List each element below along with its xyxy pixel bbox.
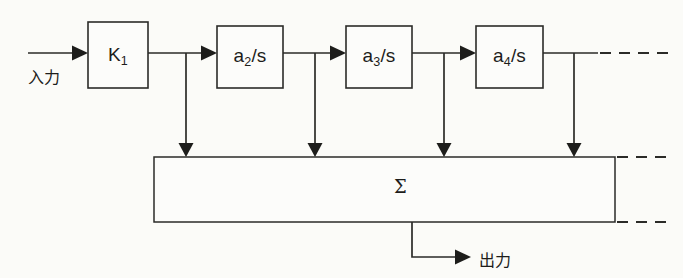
input-label: 入力 xyxy=(28,64,60,88)
arrow-into-a2s-icon xyxy=(201,46,217,61)
output-arrow-icon xyxy=(455,250,471,265)
block-a2s-base: a xyxy=(233,45,244,66)
block-a3s-label: a3/s xyxy=(346,45,412,69)
summing-block-shape xyxy=(154,157,672,222)
block-a4s-base: a xyxy=(493,45,504,66)
block-k1-label: K1 xyxy=(88,44,148,68)
output-path xyxy=(412,222,471,265)
block-a4s-sub: 4 xyxy=(504,55,511,69)
block-a2s-label: a2/s xyxy=(217,45,283,69)
output-label: 出力 xyxy=(479,247,511,271)
block-a4s-label: a4/s xyxy=(476,45,543,69)
block-a3s-tail: /s xyxy=(380,45,395,66)
input-arrow-icon xyxy=(72,46,88,61)
tap-1-arrow-icon xyxy=(179,143,194,157)
tap-4-arrow-icon xyxy=(567,143,582,157)
summing-block-label: Σ xyxy=(394,176,407,197)
tap-3-arrow-icon xyxy=(437,143,452,157)
block-a3s-base: a xyxy=(362,45,373,66)
summing-bar-outline xyxy=(154,157,615,222)
diagram-svg xyxy=(0,0,683,278)
block-diagram-canvas: 入力 K1 a2/s a3/s a4/s Σ 出力 xyxy=(0,0,683,278)
block-k1-sub: 1 xyxy=(121,54,128,68)
arrow-into-a3s-icon xyxy=(330,46,346,61)
block-k1-base: K xyxy=(108,44,121,65)
block-a2s-tail: /s xyxy=(251,45,266,66)
arrow-into-a4s-icon xyxy=(460,46,476,61)
tap-2-arrow-icon xyxy=(308,143,323,157)
block-a4s-tail: /s xyxy=(511,45,526,66)
